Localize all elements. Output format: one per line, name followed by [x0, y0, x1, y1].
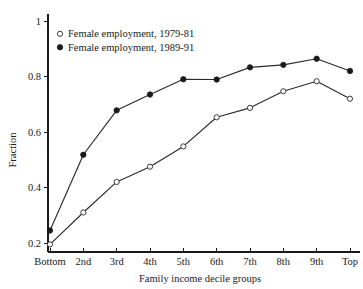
y-tick-label: 0.6: [28, 127, 41, 138]
y-tick-label: 0.4: [28, 182, 42, 193]
data-point-marker: [281, 89, 286, 94]
data-point-marker: [81, 152, 86, 157]
data-point-marker: [147, 92, 152, 97]
x-tick-label: 5th: [177, 256, 191, 267]
x-tick-label: 7th: [243, 256, 257, 267]
data-point-marker: [347, 68, 352, 73]
series-line: [50, 81, 350, 244]
x-axis-title: Family income decile groups: [139, 273, 261, 284]
legend-marker-filled-circle: [57, 45, 62, 50]
y-axis: 0.20.40.60.81: [28, 14, 48, 252]
x-tick-label: 8th: [277, 256, 291, 267]
chart-legend: Female employment, 1979-81Female employm…: [57, 28, 194, 53]
x-tick-label: Bottom: [34, 256, 66, 267]
data-point-marker: [114, 108, 119, 113]
data-point-marker: [181, 144, 186, 149]
y-tick-label: 1: [36, 16, 41, 27]
x-tick-label: Top: [342, 256, 358, 267]
data-point-marker: [47, 228, 52, 233]
x-axis: Bottom2nd3rd4th5th6th7th8th9thTop: [34, 248, 360, 267]
data-point-marker: [214, 77, 219, 82]
line-chart: 0.20.40.60.81 Bottom2nd3rd4th5th6th7th8t…: [0, 0, 363, 289]
y-axis-title: Fraction: [7, 132, 18, 168]
legend-label: Female employment, 1989-91: [68, 42, 194, 53]
x-tick-label: 6th: [210, 256, 224, 267]
data-point-marker: [347, 96, 352, 101]
data-point-marker: [247, 65, 252, 70]
legend-marker-open-circle: [57, 31, 62, 36]
x-tick-label: 3rd: [110, 256, 125, 267]
data-point-marker: [281, 62, 286, 67]
data-point-marker: [247, 105, 252, 110]
data-point-marker: [314, 56, 319, 61]
data-series-group: [47, 56, 352, 247]
data-point-marker: [147, 164, 152, 169]
chart-figure: 0.20.40.60.81 Bottom2nd3rd4th5th6th7th8t…: [0, 0, 363, 289]
x-tick-label: 2nd: [75, 256, 92, 267]
data-point-marker: [214, 115, 219, 120]
data-point-marker: [314, 79, 319, 84]
data-point-marker: [47, 242, 52, 247]
y-tick-label: 0.8: [28, 71, 41, 82]
data-point-marker: [181, 77, 186, 82]
y-tick-label: 0.2: [28, 238, 41, 249]
x-tick-label: 4th: [143, 256, 157, 267]
legend-label: Female employment, 1979-81: [68, 28, 194, 39]
x-tick-label: 9th: [310, 256, 324, 267]
data-point-marker: [114, 179, 119, 184]
data-point-marker: [81, 210, 86, 215]
